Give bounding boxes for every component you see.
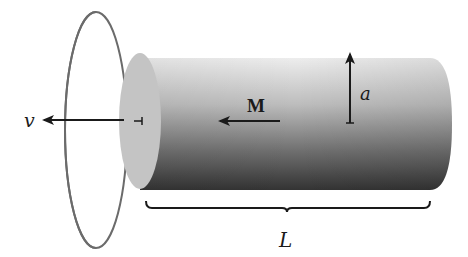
length-brace: L [146,201,430,252]
cylinder-body-shade [140,58,452,190]
velocity-vector: v [24,109,124,131]
velocity-label: v [24,109,35,131]
loop-front-arc [65,12,96,248]
length-label: L [278,228,292,252]
radius-label: a [360,83,371,104]
magnetized-cylinder-diagram: v M a L [0,0,468,257]
magnetized-cylinder [119,53,452,190]
magnetization-label: M [247,95,265,116]
brace-path [146,201,430,212]
